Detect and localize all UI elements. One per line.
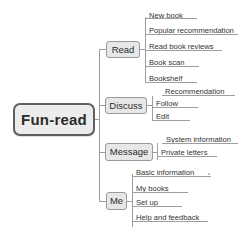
branch-node-read[interactable]: Read — [106, 41, 140, 58]
leaf-rule-private-letters — [157, 156, 217, 157]
mindmap-canvas: Fun-read Read New book Popular recommend… — [0, 0, 250, 233]
connector-trunk-to-read — [99, 49, 106, 50]
leaf-rule-system-information — [162, 143, 238, 144]
bullet-dot-icon — [208, 173, 210, 175]
branch-node-message[interactable]: Message — [105, 143, 153, 161]
connector-message-spine — [157, 143, 158, 160]
branch-node-read-label: Read — [112, 45, 135, 55]
leaf-rule-my-books — [132, 192, 188, 193]
leaf-rule-popular-recommendation — [145, 34, 238, 35]
root-node-label: Fun-read — [21, 112, 87, 127]
leaf-rule-read-book-reviews — [145, 50, 222, 51]
branch-node-discuss-label: Discuss — [109, 101, 142, 111]
leaf-rule-set-up — [132, 206, 182, 207]
leaf-rule-recommendation — [162, 95, 235, 96]
leaf-rule-bookshelf — [145, 82, 197, 83]
leaf-rule-book-scan — [145, 66, 199, 67]
branch-node-discuss[interactable]: Discuss — [105, 97, 147, 114]
root-node-fun-read[interactable]: Fun-read — [13, 103, 95, 136]
branch-node-message-label: Message — [110, 147, 149, 157]
leaf-rule-help-and-feedback — [132, 221, 208, 222]
connector-main-trunk — [99, 49, 100, 201]
connector-me-spine — [132, 174, 133, 227]
leaf-rule-new-book — [145, 18, 197, 19]
leaf-rule-follow — [152, 107, 198, 108]
connector-trunk-to-me — [99, 201, 106, 202]
branch-node-me-label: Me — [110, 196, 123, 206]
connector-discuss-spine — [152, 96, 153, 120]
branch-node-me[interactable]: Me — [106, 192, 127, 210]
leaf-rule-basic-information — [132, 176, 211, 177]
leaf-rule-edit — [152, 120, 190, 121]
